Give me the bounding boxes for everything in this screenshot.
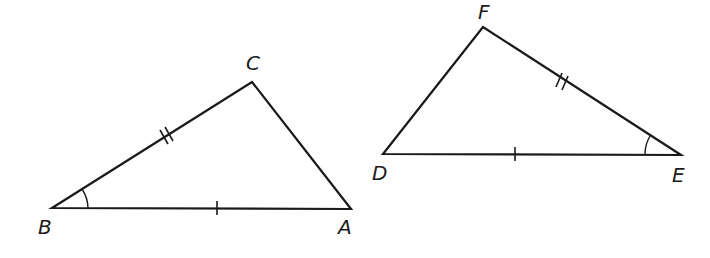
vertex-label-c: C [246, 51, 260, 75]
vertex-label-f: F [478, 0, 490, 24]
congruent-triangles-diagram: A B C D E F [0, 0, 710, 258]
vertex-label-a: A [336, 215, 352, 239]
vertex-label-e: E [672, 163, 685, 187]
vertex-label-b: B [38, 215, 52, 239]
triangle-abc-outline [52, 82, 351, 209]
angle-e-arc [645, 136, 650, 155]
vertex-label-d: D [372, 161, 387, 185]
angle-b-arc [82, 189, 88, 208]
triangle-def-outline [383, 27, 681, 155]
triangle-abc: A B C [38, 51, 352, 239]
triangle-def: D E F [372, 0, 685, 187]
